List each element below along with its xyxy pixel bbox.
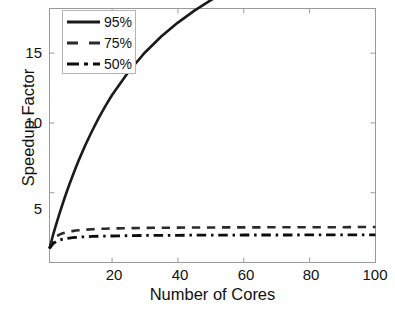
x-tick-label-40: 40	[158, 266, 202, 283]
legend-label-50: 50%	[102, 56, 135, 72]
legend-item-95[interactable]: 95%	[63, 11, 135, 32]
x-tick-label-100: 100	[353, 266, 395, 283]
chart-legend: 95% 75% 50%	[62, 10, 136, 74]
legend-item-50[interactable]: 50%	[63, 53, 135, 74]
legend-label-75: 75%	[102, 35, 135, 51]
amdahl-speedup-chart: Speedup Factor Number of Cores 20 40 60 …	[0, 0, 395, 313]
x-axis-label: Number of Cores	[49, 285, 376, 304]
legend-swatch-solid-icon	[65, 12, 102, 32]
y-tick-label-10: 10	[8, 114, 42, 131]
x-tick-label-60: 60	[224, 266, 268, 283]
y-tick-label-5: 5	[8, 200, 42, 217]
y-tick-label-15: 15	[8, 44, 42, 61]
legend-swatch-dashdot-icon	[65, 54, 102, 74]
legend-label-95: 95%	[102, 14, 135, 30]
x-tick-label-20: 20	[92, 266, 136, 283]
legend-swatch-dashed-icon	[65, 33, 102, 53]
legend-item-75[interactable]: 75%	[63, 32, 135, 53]
x-tick-label-80: 80	[289, 266, 333, 283]
